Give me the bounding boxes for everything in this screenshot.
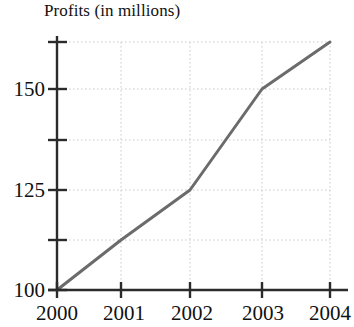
x-tick-label-2002: 2002 bbox=[171, 301, 213, 325]
x-tick-label-2003: 2003 bbox=[242, 301, 284, 325]
gridlines-vertical bbox=[121, 42, 330, 290]
x-tick-label-2000: 2000 bbox=[36, 301, 78, 325]
x-tick-label-2001: 2001 bbox=[103, 301, 145, 325]
y-tick-label-150: 150 bbox=[14, 77, 46, 101]
profits-line-chart: Profits (in millions) bbox=[0, 0, 354, 327]
y-tick-label-125: 125 bbox=[14, 178, 46, 202]
data-line-profits bbox=[57, 42, 330, 290]
x-tick-label-2004: 2004 bbox=[309, 301, 352, 325]
chart-plot-area: 150 125 100 2000 2001 2002 2003 2004 bbox=[0, 0, 354, 327]
y-tick-label-100: 100 bbox=[14, 278, 46, 302]
